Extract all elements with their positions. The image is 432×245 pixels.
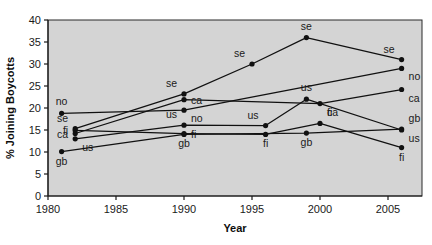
x-tick-label: 1990: [172, 203, 196, 215]
data-point: [181, 108, 186, 113]
y-tick-label: 25: [29, 80, 41, 92]
y-tick-label: 10: [29, 146, 41, 158]
data-point: [181, 91, 186, 96]
x-tick-label: 2000: [308, 203, 332, 215]
data-point: [304, 35, 309, 40]
data-point: [181, 132, 186, 137]
point-label-us: us: [301, 81, 312, 93]
x-tick-label: 2005: [376, 203, 400, 215]
data-point: [304, 130, 309, 135]
data-point: [399, 57, 404, 62]
point-label-gb: gb: [301, 136, 313, 148]
data-point: [399, 127, 404, 132]
point-label-gb: gb: [178, 137, 190, 149]
point-label-no: no: [191, 112, 203, 124]
point-label-ca: ca: [409, 92, 420, 104]
point-label-fi: fi: [263, 137, 268, 149]
point-label-no: no: [409, 70, 421, 82]
x-tick-label: 1995: [240, 203, 264, 215]
point-label-fi: fi: [191, 128, 196, 140]
data-point: [399, 87, 404, 92]
data-point: [317, 121, 322, 126]
y-tick-label: 30: [29, 58, 41, 70]
data-point: [304, 97, 309, 102]
point-label-fi: fi: [63, 124, 68, 136]
point-label-se: se: [384, 43, 395, 55]
point-label-gb: gb: [56, 155, 68, 167]
data-point: [399, 66, 404, 71]
data-point: [181, 123, 186, 128]
point-label-fi: fi: [327, 106, 332, 118]
point-label-ca: ca: [191, 94, 202, 106]
y-tick-label: 5: [35, 168, 41, 180]
data-point: [73, 136, 78, 141]
point-label-se: se: [166, 77, 177, 89]
data-point: [263, 123, 268, 128]
point-label-us: us: [166, 108, 177, 120]
y-tick-label: 40: [29, 14, 41, 26]
data-point: [263, 132, 268, 137]
data-point: [59, 111, 64, 116]
point-label-fi: fi: [399, 151, 404, 163]
data-point: [73, 128, 78, 133]
x-tick-label: 1980: [36, 203, 60, 215]
y-tick-label: 20: [29, 102, 41, 114]
point-label-gb: gb: [409, 112, 421, 124]
point-label-us: us: [248, 109, 259, 121]
point-label-us: us: [409, 132, 420, 144]
point-label-se: se: [234, 47, 245, 59]
data-point: [399, 145, 404, 150]
x-axis-title: Year: [223, 222, 247, 234]
data-point: [181, 97, 186, 102]
y-tick-label: 35: [29, 36, 41, 48]
y-axis-title: % Joining Boycotts: [4, 57, 16, 159]
point-label-se: se: [301, 20, 312, 32]
data-point: [59, 149, 64, 154]
y-tick-label: 15: [29, 124, 41, 136]
chart-canvas: 0510152025303540198019851990199520002005…: [0, 0, 432, 245]
y-tick-label: 0: [35, 190, 41, 202]
data-point: [249, 61, 254, 66]
point-label-no: no: [56, 95, 68, 107]
line-chart: 0510152025303540198019851990199520002005…: [0, 0, 432, 245]
x-tick-label: 1985: [104, 203, 128, 215]
